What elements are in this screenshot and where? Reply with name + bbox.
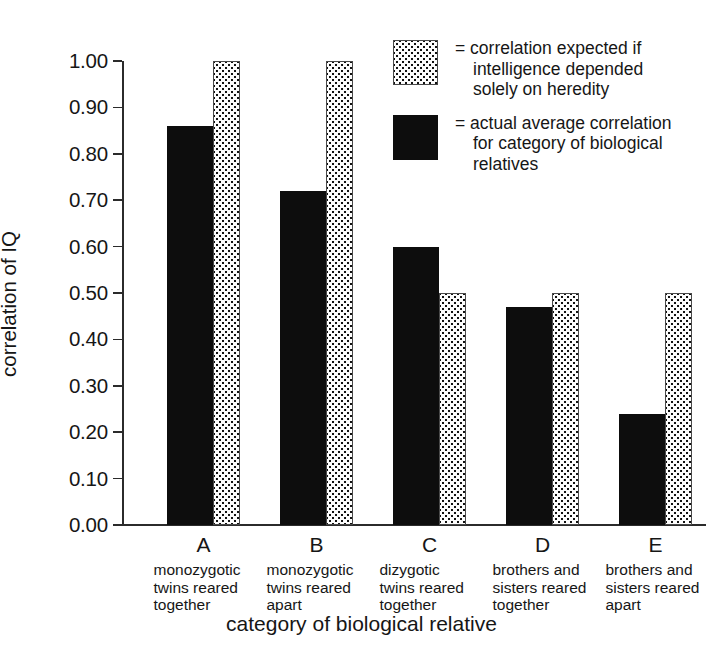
x-axis-description-line: sisters reared xyxy=(493,579,587,597)
x-axis-group-letter-d: D xyxy=(503,533,583,557)
x-axis-group-letter-c: C xyxy=(390,533,470,557)
x-axis-group-letter-e: E xyxy=(616,533,696,557)
x-axis-description-line: monozygotic xyxy=(267,561,354,579)
y-axis-tick xyxy=(113,292,122,294)
legend: = correlation expected if intelligence d… xyxy=(393,38,713,187)
y-axis-tick xyxy=(113,60,122,62)
y-axis-tick xyxy=(113,385,122,387)
x-axis-description-line: together xyxy=(154,596,241,614)
y-axis-tick xyxy=(113,107,122,109)
y-axis-title: correlation of IQ xyxy=(0,154,21,454)
bar-actual-b xyxy=(280,191,326,525)
bar-expected-b xyxy=(326,61,353,525)
x-axis-title: category of biological relative xyxy=(0,612,723,636)
legend-equals-sign: = xyxy=(455,38,465,58)
x-axis-group-description-d: brothers andsisters rearedtogether xyxy=(493,561,587,614)
bar-expected-c xyxy=(439,293,466,525)
legend-line-1: actual average correlation xyxy=(470,113,671,133)
x-axis-description-line: twins reared xyxy=(154,579,241,597)
legend-line-2: intelligence depended xyxy=(473,59,643,79)
y-axis-tick-label: 0.90 xyxy=(0,97,108,118)
bar-expected-a xyxy=(213,61,240,525)
legend-line-2: for category of biological xyxy=(473,133,663,153)
legend-equals-sign: = xyxy=(455,113,465,133)
x-axis-group-letter-a: A xyxy=(164,533,244,557)
x-axis-description-line: twins reared xyxy=(267,579,354,597)
x-axis-description-line: apart xyxy=(606,596,700,614)
x-axis-description-line: dizygotic xyxy=(380,561,464,579)
x-axis-group-description-a: monozygotictwins rearedtogether xyxy=(154,561,241,614)
x-axis-description-line: together xyxy=(380,596,464,614)
bar-actual-e xyxy=(619,414,665,525)
legend-entry-expected: = correlation expected if intelligence d… xyxy=(393,38,713,100)
x-axis-description-line: monozygotic xyxy=(154,561,241,579)
y-axis-tick-label: 1.00 xyxy=(0,51,108,72)
legend-label-expected: = correlation expected if intelligence d… xyxy=(455,38,713,100)
x-axis-group-description-e: brothers andsisters rearedapart xyxy=(606,561,700,614)
legend-line-3: relatives xyxy=(473,154,538,174)
bar-expected-e xyxy=(665,293,692,525)
x-axis-description-line: apart xyxy=(267,596,354,614)
bar-actual-d xyxy=(506,307,552,525)
legend-entry-actual: = actual average correlation for categor… xyxy=(393,113,713,175)
bar-actual-a xyxy=(167,126,213,525)
x-axis-description-line: brothers and xyxy=(493,561,587,579)
x-axis-description-line: brothers and xyxy=(606,561,700,579)
iq-correlation-bar-chart: 1.000.900.800.700.600.500.400.300.200.10… xyxy=(0,0,723,658)
legend-label-actual: = actual average correlation for categor… xyxy=(455,113,713,175)
x-axis-description-line: twins reared xyxy=(380,579,464,597)
legend-swatch-dotted-icon xyxy=(393,40,438,85)
bar-actual-c xyxy=(393,247,439,525)
y-axis-tick xyxy=(113,153,122,155)
y-axis-tick-label: 0.10 xyxy=(0,469,108,490)
legend-line-1: correlation expected if xyxy=(470,38,641,58)
y-axis-tick xyxy=(113,431,122,433)
x-axis-group-letter-b: B xyxy=(277,533,357,557)
x-axis-description-line: sisters reared xyxy=(606,579,700,597)
y-axis-tick xyxy=(113,199,122,201)
x-axis-group-description-c: dizygotictwins rearedtogether xyxy=(380,561,464,614)
y-axis-tick xyxy=(113,339,122,341)
x-axis-group-description-b: monozygotictwins rearedapart xyxy=(267,561,354,614)
y-axis-tick-label: 0.00 xyxy=(0,515,108,536)
legend-line-3: solely on heredity xyxy=(473,79,609,99)
legend-swatch-solid-icon xyxy=(393,115,438,160)
x-axis-description-line: together xyxy=(493,596,587,614)
y-axis-tick xyxy=(113,246,122,248)
bar-expected-d xyxy=(552,293,579,525)
y-axis-tick xyxy=(113,478,122,480)
y-axis-tick xyxy=(113,524,122,526)
